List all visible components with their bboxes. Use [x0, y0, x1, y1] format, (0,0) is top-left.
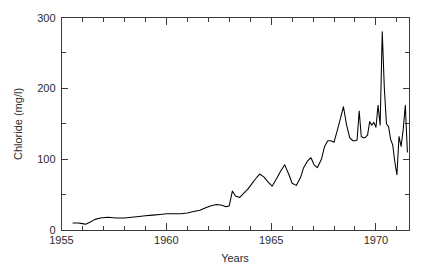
chart-figure: 19551960196519700100200300 Years Chlorid… — [0, 0, 432, 271]
x-axis-title: Years — [221, 252, 249, 264]
tick-label: 1970 — [364, 234, 388, 246]
tick-label: 1965 — [259, 234, 283, 246]
tick-label: 0 — [49, 224, 55, 236]
tick-label: 200 — [37, 82, 55, 94]
y-axis-title: Chloride (mg/l) — [12, 88, 24, 160]
chloride-line — [73, 32, 407, 225]
tick-label: 300 — [37, 12, 55, 24]
chloride-time-series-chart: 19551960196519700100200300 Years Chlorid… — [0, 0, 432, 271]
data-series-group — [73, 32, 407, 225]
tick-label: 100 — [37, 153, 55, 165]
plot-frame — [62, 18, 410, 231]
axis-tick-labels: 19551960196519700100200300 — [37, 12, 388, 247]
tick-label: 1960 — [154, 234, 178, 246]
axis-tick-marks — [62, 18, 410, 231]
